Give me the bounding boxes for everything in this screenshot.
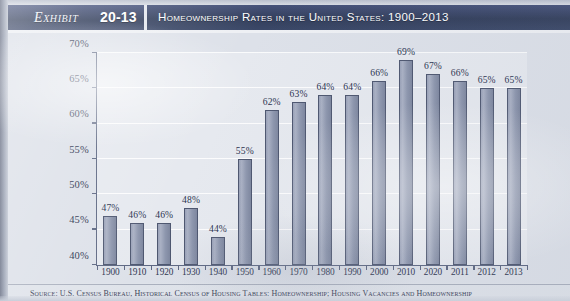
x-axis-label: 2010: [397, 267, 415, 277]
bar: [372, 81, 386, 265]
bar: [507, 88, 521, 265]
exhibit-word: Exhibit: [34, 9, 78, 26]
x-axis-label: 1930: [182, 267, 200, 277]
bar-value-label: 62%: [263, 96, 281, 107]
x-axis-tick: [527, 265, 528, 270]
x-axis-label: 1910: [128, 267, 146, 277]
x-axis-tick: [312, 265, 313, 270]
bar: [453, 81, 467, 265]
bar: [103, 216, 117, 265]
x-axis-tick: [205, 265, 206, 270]
x-axis-label: 1960: [263, 267, 281, 277]
bar-value-label: 44%: [209, 223, 227, 234]
bar: [426, 74, 440, 265]
bar: [480, 88, 494, 265]
x-axis-tick: [151, 265, 152, 270]
y-axis-label: 55%: [69, 143, 89, 154]
x-axis-label: 1950: [236, 267, 254, 277]
x-axis-tick: [393, 265, 394, 270]
x-axis-tick: [124, 265, 125, 270]
bar-value-label: 67%: [424, 60, 442, 71]
bar-value-label: 65%: [478, 74, 496, 85]
bar: [184, 208, 198, 265]
x-axis-tick: [473, 265, 474, 270]
y-axis-label: 60%: [69, 108, 89, 119]
exhibit-number: 20-13: [100, 9, 137, 26]
exhibit-page: Exhibit 20-13 Homeownership Rates in the…: [0, 0, 570, 301]
bar-value-label: 46%: [128, 209, 146, 220]
bar: [345, 95, 359, 265]
x-axis-label: 2013: [504, 267, 522, 277]
header-divider: [144, 5, 147, 30]
bar: [292, 102, 306, 265]
plot-area: 40%45%50%55%60%65%70% 190019101920193019…: [96, 53, 527, 266]
y-axis-label: 50%: [69, 178, 89, 189]
x-axis-tick: [285, 265, 286, 270]
x-axis-label: 1920: [155, 267, 173, 277]
x-axis-tick: [231, 265, 232, 270]
x-axis-label: 1940: [209, 267, 227, 277]
x-axis-label: 2000: [370, 267, 388, 277]
y-axis-tick: [92, 87, 97, 88]
x-axis-label: 2012: [478, 267, 496, 277]
y-axis-tick: [92, 122, 97, 123]
gridline: [97, 52, 527, 53]
x-axis-label: 1980: [316, 267, 334, 277]
y-axis-label: 70%: [69, 37, 89, 48]
bar-value-label: 65%: [505, 74, 523, 85]
x-axis-tick: [420, 265, 421, 270]
x-axis-label: 1990: [343, 267, 361, 277]
page-bottom-crop: [0, 296, 570, 301]
x-axis-tick: [446, 265, 447, 270]
bar-value-label: 69%: [397, 46, 415, 57]
bar: [211, 237, 225, 265]
x-axis-tick: [258, 265, 259, 270]
bar-value-label: 63%: [290, 88, 308, 99]
chart-container: 40%45%50%55%60%65%70% 190019101920193019…: [8, 33, 570, 283]
bar: [399, 60, 413, 265]
x-axis-tick: [500, 265, 501, 270]
x-axis-label: 2011: [451, 267, 469, 277]
bar: [238, 159, 252, 265]
x-axis-tick: [97, 265, 98, 270]
bar: [157, 223, 171, 265]
x-axis-label: 1970: [289, 267, 307, 277]
source-rule: [8, 284, 570, 285]
exhibit-title: Homeownership Rates in the United States…: [158, 10, 449, 25]
bar-value-label: 55%: [236, 145, 254, 156]
x-axis-label: 1900: [101, 267, 119, 277]
x-axis-tick: [339, 265, 340, 270]
y-axis-label: 40%: [69, 249, 89, 260]
bar-value-label: 66%: [451, 67, 469, 78]
header-rule: [8, 30, 570, 33]
bar: [318, 95, 332, 265]
bar: [265, 110, 279, 265]
page-gutter: [0, 0, 8, 301]
bar-value-label: 46%: [155, 209, 173, 220]
bar-value-label: 64%: [343, 81, 361, 92]
x-axis-label: 2020: [424, 267, 442, 277]
bar-value-label: 66%: [370, 67, 388, 78]
y-axis-tick: [92, 228, 97, 229]
bar-value-label: 64%: [316, 81, 334, 92]
x-axis-tick: [178, 265, 179, 270]
x-axis-tick: [366, 265, 367, 270]
bar: [130, 223, 144, 265]
y-axis-tick: [92, 193, 97, 194]
y-axis-label: 45%: [69, 214, 89, 225]
bar-value-label: 47%: [101, 202, 119, 213]
y-axis-label: 65%: [69, 72, 89, 83]
bar-value-label: 48%: [182, 194, 200, 205]
y-axis-tick: [92, 52, 97, 53]
y-axis-tick: [92, 158, 97, 159]
exhibit-header: Exhibit 20-13 Homeownership Rates in the…: [8, 5, 570, 30]
